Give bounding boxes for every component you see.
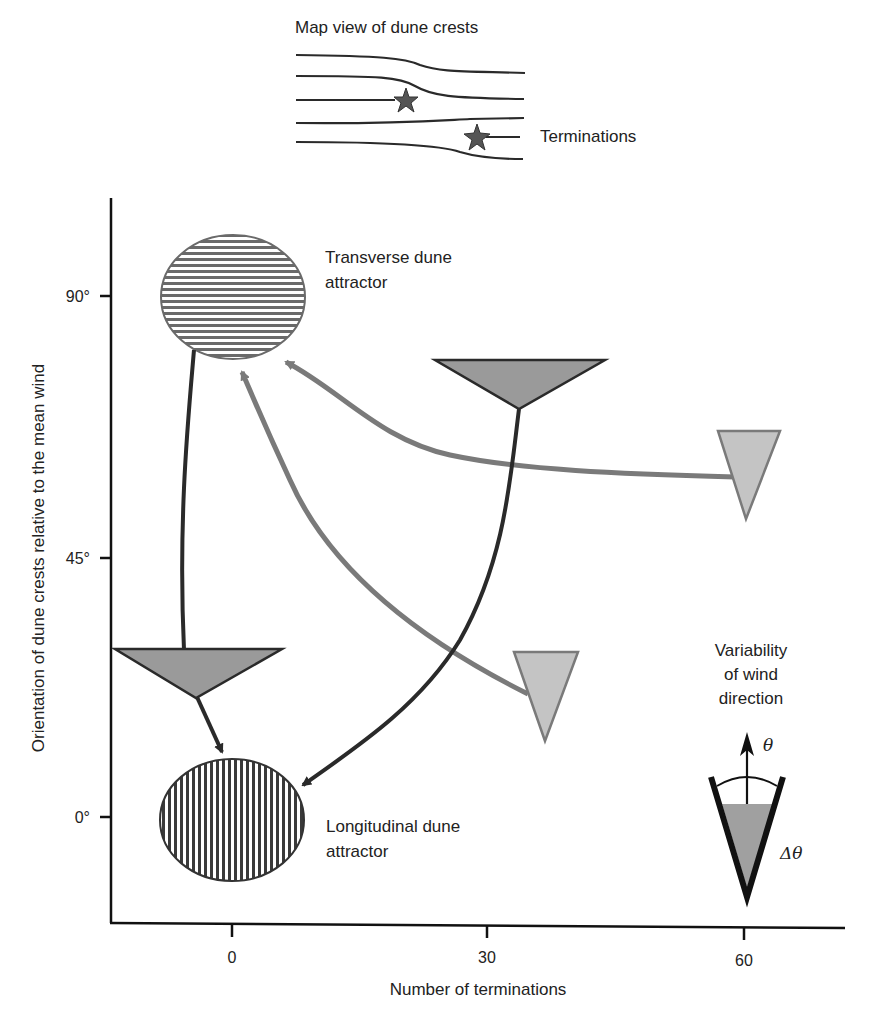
light-arrow-from-lower-triangle	[242, 372, 528, 694]
y-axis-label: Orientation of dune crests relative to t…	[29, 364, 48, 752]
wind-variability-legend: Variability of wind direction θ Δθ	[711, 641, 803, 897]
dark-arrow-left-triangle-to-longitudinal	[197, 697, 222, 752]
dark-triangle-left	[115, 649, 282, 698]
x-axis-label: Number of terminations	[390, 980, 567, 999]
terminations-label: Terminations	[540, 127, 636, 146]
legend-line1: Variability	[715, 641, 788, 660]
x-tick-label-30: 30	[478, 949, 496, 966]
y-tick-label-0: 0°	[75, 809, 90, 826]
longitudinal-label-line1: Longitudinal dune	[326, 817, 460, 836]
legend-line2: of wind	[724, 665, 778, 684]
longitudinal-dune-attractor	[160, 759, 304, 881]
legend-line3: direction	[719, 689, 783, 708]
transverse-label-line1: Transverse dune	[325, 248, 452, 267]
light-triangle-lower	[514, 652, 578, 741]
theta-symbol: θ	[763, 735, 773, 755]
transverse-label-line2: attractor	[325, 273, 388, 292]
longitudinal-label-line2: attractor	[326, 842, 389, 861]
dark-triangle-top	[435, 360, 605, 409]
y-tick-label-90: 90°	[66, 288, 90, 305]
dark-arrow-top-triangle-to-longitudinal	[303, 409, 519, 785]
dark-arrow-transverse-to-left-triangle	[182, 350, 194, 650]
inset-map-view: Map view of dune crests Terminations	[295, 18, 636, 159]
transverse-dune-attractor	[161, 235, 305, 359]
x-tick-label-60: 60	[735, 952, 753, 969]
termination-star-2	[464, 124, 490, 150]
termination-star-1	[394, 88, 418, 112]
x-tick-label-0: 0	[228, 949, 237, 966]
diagram-canvas: Map view of dune crests Terminations 90°…	[0, 0, 878, 1021]
delta-theta-symbol: Δθ	[779, 843, 803, 863]
x-axis	[110, 923, 845, 928]
inset-title: Map view of dune crests	[295, 18, 478, 37]
y-tick-label-45: 45°	[66, 550, 90, 567]
